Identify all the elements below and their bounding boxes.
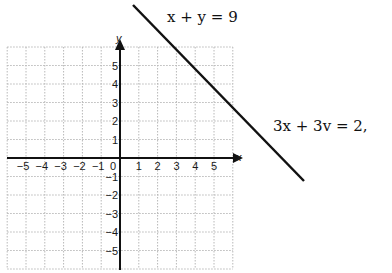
equation-line: [133, 5, 304, 181]
x-tick-label: −3: [54, 160, 67, 172]
y-tick-label: 2: [112, 115, 118, 127]
y-axis-label: y: [115, 32, 123, 44]
x-tick-label: 4: [192, 160, 198, 172]
graph: x y −5−4−3−2−101234554321−1−2−3−4−5 x + …: [0, 0, 392, 273]
x-tick-label: 5: [211, 160, 217, 172]
y-tick-label: 5: [112, 60, 118, 72]
x-axis-label: x: [235, 151, 242, 163]
x-tick-label: −2: [73, 160, 86, 172]
x-tick-label: 1: [136, 160, 142, 172]
x-tick-label: 3: [173, 160, 179, 172]
y-tick-label: 1: [112, 134, 118, 146]
y-tick-label: −5: [105, 245, 118, 257]
y-tick-label: −3: [105, 208, 118, 220]
x-tick-label: −4: [36, 160, 49, 172]
axes: [7, 39, 243, 270]
equation-label-1: x + y = 9: [167, 8, 238, 26]
y-tick-label: −2: [105, 189, 118, 201]
equation-label-2: 3x + 3v = 2,: [273, 117, 368, 135]
y-tick-label: 4: [112, 78, 118, 90]
y-tick-label: −4: [105, 226, 118, 238]
x-tick-label: 2: [155, 160, 161, 172]
x-tick-label: −1: [92, 160, 105, 172]
x-tick-label: −5: [17, 160, 30, 172]
y-tick-label: −1: [105, 171, 118, 183]
y-tick-label: 3: [112, 97, 118, 109]
